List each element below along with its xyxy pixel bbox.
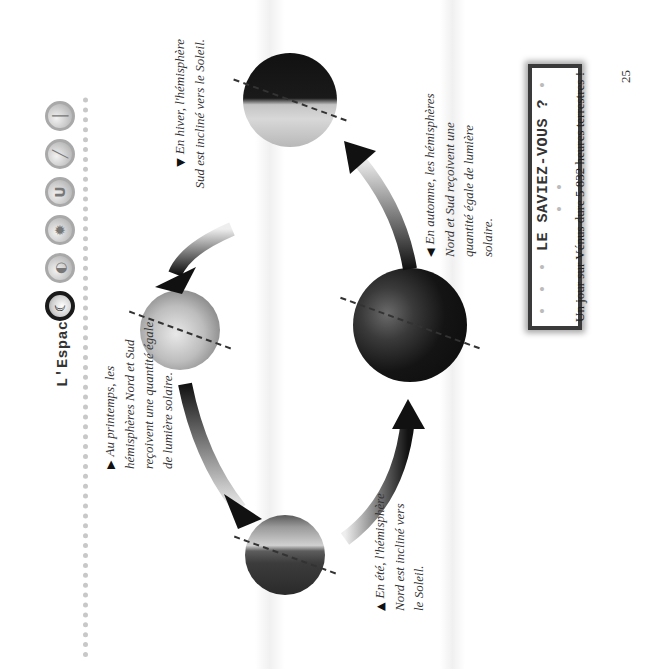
caption-spring: ▶Au printemps, les hémisphères Nord et S… [100,309,177,469]
caption-summer: ▲En été, l'hémisphère Nord est incliné v… [370,491,428,611]
fact-title-text: LE SAVIEZ-VOUS ? [535,99,552,251]
book-page: L'Espace ☾ ◐ ✹ U ╱ │ [0,0,658,669]
marker-down-icon: ▼ [174,158,187,166]
caption-autumn: ◀En automne, les hémisphères Nord et Sud… [420,87,497,257]
marker-up-icon: ▲ [374,603,387,611]
fact-box-text: Un jour sur Vénus dure 5 832 heures terr… [572,68,588,326]
leading-dots: • • • [535,261,552,316]
marker-left-icon: ◀ [424,249,437,257]
fact-box: • • • LE SAVIEZ-VOUS ? • • • Un jour sur… [528,64,582,330]
fact-box-title: • • • LE SAVIEZ-VOUS ? • • • [535,68,569,326]
arrow-autumn-to-winter [344,141,410,269]
marker-right-icon: ▶ [104,461,117,469]
page-number: 25 [618,70,634,83]
caption-autumn-text: En automne, les hémisphères Nord et Sud … [422,93,495,257]
arrow-spring-to-summer [185,384,262,529]
caption-winter: ▼En hiver, l'hémisphère Sud est incliné … [170,39,209,189]
caption-summer-text: En été, l'hémisphère Nord est incliné ve… [372,493,426,611]
arrow-winter-to-spring [155,229,232,294]
caption-spring-text: Au printemps, les hémisphères Nord et Su… [102,322,175,469]
